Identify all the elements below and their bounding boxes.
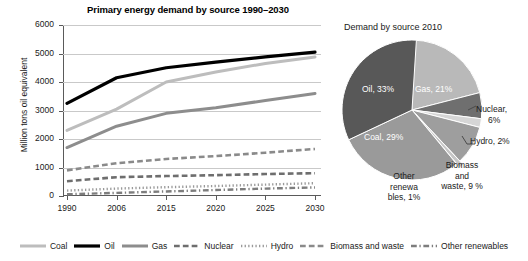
pie-label-biomass-line1: Biomass	[446, 160, 479, 170]
pie-label-biomass: Biomass and waste, 9 %	[434, 160, 490, 192]
pie-label-oil: Oil, 33%	[362, 84, 394, 94]
pie-label-nuclear-line1: Nuclear,	[476, 104, 507, 114]
y-tick-label: 5000	[14, 48, 54, 58]
pie-label-hydro: Hydro, 2%	[470, 136, 528, 147]
series-line-biomass-and-waste	[67, 149, 315, 170]
pie-label-other-line2: renewa	[390, 182, 418, 192]
energy-demand-figure: Primary energy demand by source 1990–203…	[0, 0, 528, 261]
pie-label-gas: Gas, 21%	[415, 84, 452, 94]
line-chart-panel: Primary energy demand by source 1990–203…	[0, 0, 340, 228]
legend-swatch-oil-icon	[74, 242, 100, 250]
pie-chart-panel: Demand by source 2010 Oil, 33% Gas, 21% …	[336, 0, 528, 228]
legend-swatch-other-renewables-icon	[411, 242, 437, 250]
legend-label: Hydro	[271, 241, 294, 251]
x-tick-label: 2006	[97, 203, 137, 213]
pie-label-biomass-line2: and	[455, 171, 469, 181]
pie-label-coal: Coal, 29%	[364, 132, 403, 142]
pie-label-biomass-line3: waste, 9 %	[441, 181, 483, 191]
legend-swatch-biomass-and-waste-icon	[300, 242, 326, 250]
legend-item-gas[interactable]: Gas	[122, 241, 168, 251]
plot-area: 0100020003000400050006000 19902006201520…	[63, 25, 321, 196]
y-tick-label: 1000	[14, 162, 54, 172]
data-series-layer	[63, 25, 321, 197]
pie-label-other-line3: bles, 1%	[388, 192, 421, 202]
legend-label: Nuclear	[204, 241, 233, 251]
line-chart-title: Primary energy demand by source 1990–203…	[48, 4, 328, 15]
y-tick-label: 6000	[14, 19, 54, 29]
legend-item-coal[interactable]: Coal	[20, 241, 67, 251]
legend-item-biomass-and-waste[interactable]: Biomass and waste	[300, 241, 404, 251]
pie-label-other-renewables: Other renewa bles, 1%	[378, 171, 430, 203]
x-tick-label: 2030	[295, 203, 335, 213]
legend-item-hydro[interactable]: Hydro	[241, 241, 294, 251]
legend-label: Biomass and waste	[330, 241, 404, 251]
legend-swatch-gas-icon	[122, 242, 148, 250]
legend-label: Oil	[104, 241, 114, 251]
legend-label: Other renewables	[441, 241, 508, 251]
legend-item-nuclear[interactable]: Nuclear	[174, 241, 233, 251]
pie-label-nuclear: Nuclear, 6%	[476, 104, 528, 125]
series-line-gas	[67, 93, 315, 147]
legend-item-other-renewables[interactable]: Other renewables	[411, 241, 508, 251]
pie-label-nuclear-line2: 6%	[476, 115, 500, 126]
x-tick-label: 2015	[146, 203, 186, 213]
y-tick-label: 4000	[14, 76, 54, 86]
y-tick-label: 2000	[14, 133, 54, 143]
series-line-coal	[67, 57, 315, 131]
legend-item-oil[interactable]: Oil	[74, 241, 114, 251]
pie-label-other-line1: Other	[393, 171, 414, 181]
legend-swatch-hydro-icon	[241, 242, 267, 250]
legend-swatch-coal-icon	[20, 242, 46, 250]
chart-legend: CoalOilGasNuclearHydroBiomass and wasteO…	[0, 233, 528, 259]
series-line-nuclear	[67, 173, 315, 181]
y-tick-label: 0	[14, 190, 54, 200]
pie-chart-title: Demand by source 2010	[344, 22, 442, 32]
x-tick-label: 2025	[245, 203, 285, 213]
x-tick-label: 1990	[47, 203, 87, 213]
legend-swatch-nuclear-icon	[174, 242, 200, 250]
legend-label: Coal	[50, 241, 67, 251]
y-tick-label: 3000	[14, 105, 54, 115]
legend-label: Gas	[152, 241, 168, 251]
x-tick-label: 2020	[196, 203, 236, 213]
